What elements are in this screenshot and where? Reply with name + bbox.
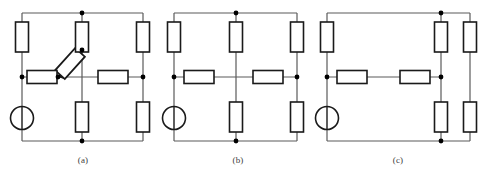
node-b-mid-right <box>295 75 300 80</box>
node-b-mid-left <box>172 75 177 80</box>
resistor-c-top-middle <box>435 22 448 52</box>
node-b-bottom-middle <box>234 139 239 144</box>
circuit-diagram-canvas <box>0 0 489 176</box>
caption-a: (a) <box>63 155 103 165</box>
circuit-a <box>11 11 150 144</box>
node-c-mid-left <box>325 75 330 80</box>
resistor-b-top-left <box>168 22 181 52</box>
resistor-c-bottom-middle <box>435 102 448 132</box>
caption-b: (b) <box>218 155 258 165</box>
node-a-top-middle <box>80 11 85 16</box>
resistor-a-top-middle <box>76 22 89 52</box>
resistor-c-top-left <box>321 22 334 52</box>
resistor-b-mid-right <box>253 71 283 84</box>
resistor-a-top-left <box>16 22 29 52</box>
resistor-a-bottom-right <box>137 102 150 132</box>
resistor-a-mid-left <box>27 71 57 84</box>
circuit-b <box>163 11 304 144</box>
voltage-source-a <box>11 107 34 130</box>
resistor-c-top-right <box>464 22 477 52</box>
node-c-bottom-middle <box>439 139 444 144</box>
resistor-b-top-right <box>291 22 304 52</box>
node-a-wiper-bottom <box>56 75 61 80</box>
caption-c: (c) <box>378 155 418 165</box>
node-a-wiper-top <box>80 48 85 53</box>
resistor-c-mid-left <box>337 71 367 84</box>
node-a-bottom-middle <box>80 139 85 144</box>
resistor-c-mid-right <box>400 71 430 84</box>
voltage-source-c <box>316 107 339 130</box>
voltage-source-b <box>163 107 186 130</box>
node-a-mid-right <box>141 75 146 80</box>
resistor-a-top-right <box>137 22 150 52</box>
node-c-mid-right <box>439 75 444 80</box>
circuit-figure: (a) (b) (c) <box>0 0 489 176</box>
resistor-a-bottom-middle <box>76 102 89 132</box>
resistor-b-bottom-right <box>291 102 304 132</box>
node-a-mid-left <box>20 75 25 80</box>
resistor-a-mid-right <box>98 71 128 84</box>
resistor-c-bottom-right <box>464 102 477 132</box>
resistor-b-mid-left <box>184 71 214 84</box>
node-c-top-middle <box>439 11 444 16</box>
resistor-b-bottom-middle <box>230 102 243 132</box>
resistor-b-top-middle <box>230 22 243 52</box>
circuit-c <box>316 11 477 144</box>
node-b-top-middle <box>234 11 239 16</box>
